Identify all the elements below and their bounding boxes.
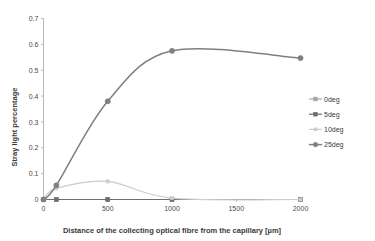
y-tick-label: 0.2 (29, 144, 39, 151)
y-tick-label: 0.4 (29, 93, 39, 100)
x-axis-title: Distance of the collecting optical fibre… (63, 226, 282, 235)
data-point-marker (298, 55, 303, 60)
chart-canvas: 00.10.20.30.40.50.60.7 0500100015002000 … (0, 0, 375, 241)
stray-light-chart: 00.10.20.30.40.50.60.7 0500100015002000 … (0, 0, 375, 241)
legend-marker-icon (314, 128, 317, 131)
data-point-marker (41, 197, 46, 202)
legend-marker-icon (314, 97, 318, 101)
data-point-marker (54, 198, 58, 202)
y-tick-label: 0.6 (29, 41, 39, 48)
y-tick-label: 0 (35, 196, 39, 203)
data-point-marker (106, 180, 109, 183)
y-tick-label: 0.5 (29, 67, 39, 74)
x-tick-label: 2000 (293, 205, 309, 212)
legend-marker-icon (313, 142, 318, 147)
x-tick-label: 0 (42, 205, 46, 212)
data-point-marker (170, 197, 173, 200)
plot-background (0, 0, 375, 241)
x-tick-label: 1000 (164, 205, 180, 212)
y-tick-label: 0.1 (29, 170, 39, 177)
legend-label: 0deg (324, 96, 340, 104)
x-tick-label: 1500 (228, 205, 244, 212)
y-tick-label: 0.3 (29, 119, 39, 126)
legend-label: 5deg (324, 111, 340, 119)
data-point-marker (299, 198, 302, 201)
data-point-marker (105, 99, 110, 104)
y-tick-label: 0.7 (29, 15, 39, 22)
legend-label: 25deg (324, 141, 344, 149)
data-point-marker (106, 198, 110, 202)
y-axis-title: Stray light percentage (10, 88, 19, 167)
data-point-marker (169, 48, 174, 53)
x-tick-label: 500 (102, 205, 114, 212)
data-point-marker (54, 183, 59, 188)
legend-marker-icon (314, 112, 318, 116)
legend-label: 10deg (324, 126, 344, 134)
